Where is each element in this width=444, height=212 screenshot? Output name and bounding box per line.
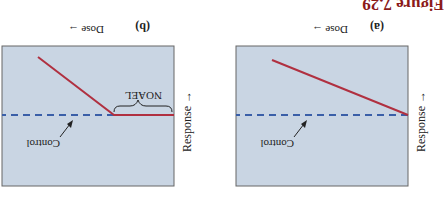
panel-b-control-label: Control (26, 138, 60, 150)
panel-a-y-label: Response → (414, 91, 429, 152)
figure: Figure 7.29 (a) (b) Dose → Dose → Respon… (0, 0, 444, 212)
panel-b (2, 46, 174, 186)
panel-b-x-label: Dose → (68, 24, 104, 36)
panel-a-control-label: Control (260, 138, 294, 150)
panel-a (236, 46, 408, 186)
noael-label: NOAEL (125, 90, 162, 102)
panel-b-y-label: Response → (180, 91, 195, 152)
panel-a-label: (a) (370, 19, 384, 34)
panel-b-label: (b) (135, 19, 150, 34)
panel-a-x-label: Dose → (312, 24, 348, 36)
